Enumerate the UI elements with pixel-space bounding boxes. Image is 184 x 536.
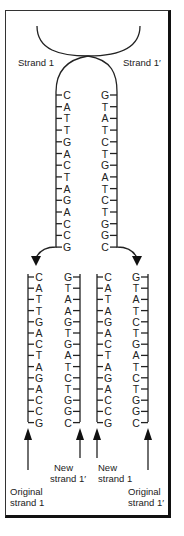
nucleotide-base: T bbox=[105, 293, 112, 305]
nucleotide-base: G bbox=[104, 316, 112, 328]
nucleotide-base: G bbox=[35, 417, 43, 429]
nucleotide-base: C bbox=[63, 229, 71, 241]
nucleotide-base: T bbox=[102, 124, 109, 136]
new-strand-1-label-line1: New bbox=[98, 462, 117, 473]
nucleotide-base: C bbox=[101, 194, 109, 206]
nucleotide-base: G bbox=[63, 136, 71, 148]
nucleotide-base: G bbox=[101, 229, 109, 241]
nucleotide-base: T bbox=[133, 282, 140, 294]
nucleotide-base: A bbox=[104, 305, 111, 317]
nucleotide-base: C bbox=[35, 394, 43, 406]
nucleotide-base: A bbox=[101, 171, 108, 183]
nucleotide-base: A bbox=[35, 282, 42, 294]
nucleotide-base: C bbox=[35, 338, 43, 350]
arrow-down-right-icon bbox=[132, 256, 142, 266]
nucleotide-base: A bbox=[35, 383, 42, 395]
nucleotide-base: C bbox=[132, 316, 140, 328]
nucleotide-base: T bbox=[36, 293, 43, 305]
nucleotide-base: A bbox=[63, 183, 70, 195]
nucleotide-base: T bbox=[64, 171, 71, 183]
nucleotide-base: C bbox=[132, 372, 140, 384]
nucleotide-base: G bbox=[132, 338, 140, 350]
nucleotide-base: T bbox=[65, 282, 72, 294]
nucleotide-base: C bbox=[104, 338, 112, 350]
strand-1-backbone bbox=[36, 56, 88, 258]
original-strand-1-pointer bbox=[24, 428, 32, 470]
nucleotide-base: C bbox=[101, 136, 109, 148]
nucleotide-base: G bbox=[132, 394, 140, 406]
new-strand-1-prime-label-line1: New bbox=[54, 462, 73, 473]
nucleotide-base: C bbox=[35, 405, 43, 417]
original-strand-1-prime-bases: GTATCTGATCTGGC bbox=[132, 271, 148, 429]
nucleotide-base: G bbox=[63, 194, 71, 206]
nucleotide-base: T bbox=[133, 383, 140, 395]
nucleotide-base: G bbox=[132, 271, 140, 283]
nucleotide-base: C bbox=[63, 159, 71, 171]
nucleotide-base: T bbox=[64, 112, 71, 124]
nucleotide-base: A bbox=[63, 101, 70, 113]
nucleotide-base: C bbox=[101, 241, 109, 253]
nucleotide-base: T bbox=[133, 361, 140, 373]
nucleotide-base: C bbox=[104, 271, 112, 283]
nucleotide-base: T bbox=[102, 183, 109, 195]
parent-strand-1-prime-bases: GTATCTGATCTGGC bbox=[101, 89, 117, 253]
new-strand-1-prime-label-line2: strand 1′ bbox=[50, 473, 86, 484]
original-strand-1-prime-label-line2: strand 1′ bbox=[128, 497, 164, 508]
strand-1-label: Strand 1 bbox=[18, 57, 54, 68]
top-parent-strand-curve bbox=[37, 26, 140, 56]
new-strand-1-prime-bases: GTAAGTGATCTGGC bbox=[64, 271, 80, 429]
parent-strand-1-bases: CATTGACTAGACCG bbox=[56, 89, 71, 253]
nucleotide-base: C bbox=[63, 89, 71, 101]
nucleotide-base: T bbox=[65, 361, 72, 373]
nucleotide-base: G bbox=[35, 316, 43, 328]
nucleotide-base: G bbox=[35, 372, 43, 384]
nucleotide-base: G bbox=[104, 417, 112, 429]
nucleotide-base: C bbox=[132, 417, 140, 429]
nucleotide-base: A bbox=[35, 327, 42, 339]
nucleotide-base: A bbox=[35, 361, 42, 373]
nucleotide-base: T bbox=[36, 349, 43, 361]
nucleotide-base: C bbox=[64, 417, 72, 429]
nucleotide-base: T bbox=[65, 383, 72, 395]
nucleotide-base: A bbox=[132, 293, 139, 305]
original-strand-1-prime-pointer bbox=[144, 428, 152, 470]
new-strand-1-bases: CATAGACTAGACCG bbox=[97, 271, 112, 429]
nucleotide-base: A bbox=[104, 361, 111, 373]
nucleotide-base: G bbox=[101, 218, 109, 230]
nucleotide-base: T bbox=[64, 124, 71, 136]
nucleotide-base: C bbox=[63, 218, 71, 230]
nucleotide-base: C bbox=[104, 394, 112, 406]
nucleotide-base: A bbox=[104, 327, 111, 339]
nucleotide-base: A bbox=[64, 305, 71, 317]
original-strand-1-prime-label-line1: Original bbox=[128, 486, 161, 497]
nucleotide-base: A bbox=[64, 349, 71, 361]
nucleotide-base: G bbox=[104, 372, 112, 384]
nucleotide-base: T bbox=[102, 206, 109, 218]
nucleotide-base: G bbox=[101, 159, 109, 171]
original-strand-1-label-line2: strand 1 bbox=[10, 497, 44, 508]
nucleotide-base: G bbox=[64, 316, 72, 328]
nucleotide-base: A bbox=[104, 282, 111, 294]
nucleotide-base: T bbox=[133, 327, 140, 339]
nucleotide-base: G bbox=[64, 394, 72, 406]
nucleotide-base: T bbox=[105, 349, 112, 361]
nucleotide-base: A bbox=[132, 349, 139, 361]
nucleotide-base: T bbox=[133, 305, 140, 317]
strand-1-prime-backbone bbox=[88, 56, 137, 258]
nucleotide-base: T bbox=[65, 327, 72, 339]
nucleotide-base: G bbox=[64, 271, 72, 283]
original-strand-1-label-line1: Original bbox=[10, 486, 43, 497]
nucleotide-base: A bbox=[101, 112, 108, 124]
nucleotide-base: T bbox=[36, 305, 43, 317]
original-strand-1-bases: CATTGACTAGACCG bbox=[28, 271, 43, 429]
nucleotide-base: G bbox=[64, 405, 72, 417]
nucleotide-base: C bbox=[64, 372, 72, 384]
nucleotide-base: A bbox=[63, 148, 70, 160]
new-strand-1-label-line2: strand 1 bbox=[98, 473, 132, 484]
nucleotide-base: A bbox=[104, 383, 111, 395]
nucleotide-base: C bbox=[35, 271, 43, 283]
arrow-down-left-icon bbox=[31, 256, 41, 266]
nucleotide-base: A bbox=[63, 206, 70, 218]
nucleotide-base: T bbox=[102, 101, 109, 113]
new-strand-1-pointer bbox=[93, 428, 101, 458]
